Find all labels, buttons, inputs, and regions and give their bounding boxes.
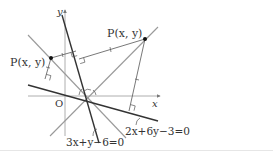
bisector-line-a — [28, 35, 126, 138]
point-p-right — [143, 37, 147, 41]
y-axis-label: y — [56, 6, 63, 17]
origin-label: O — [55, 98, 63, 109]
bisector-line-b — [50, 27, 158, 136]
perp-right-to-line2 — [129, 39, 145, 111]
x-axis-label: x — [152, 98, 158, 109]
label-leader — [136, 118, 140, 125]
angle-bisector-diagram: y x O P(x, y) P(x, y) 3x+y−6=0 2x+6y−3=0 — [0, 0, 273, 158]
line-2x-6y-3-label: 2x+6y−3=0 — [125, 125, 190, 137]
divider — [0, 150, 273, 151]
right-angle-mark — [46, 74, 51, 80]
line-3x-y-6 — [62, 15, 99, 143]
point-p-left — [49, 56, 53, 60]
tick-mark — [46, 67, 50, 68]
tick-mark — [62, 53, 63, 57]
right-angle-mark — [131, 105, 136, 111]
point-p-left-label: P(x, y) — [10, 56, 45, 69]
perp-right-to-line1 — [79, 39, 145, 59]
angle-mark — [84, 89, 91, 91]
tick-mark — [110, 47, 111, 52]
perp-left-to-line2 — [45, 58, 51, 79]
line-3x-y-6-label: 3x+y−6=0 — [66, 136, 124, 148]
point-p-right-label: P(x, y) — [107, 27, 142, 40]
